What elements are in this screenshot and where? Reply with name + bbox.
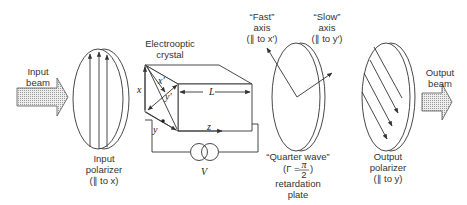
- output-polarizer-label-2: polarizer: [370, 162, 406, 173]
- quarter-wave-label-3: retardation: [275, 178, 320, 189]
- voltage-label: V: [201, 166, 209, 177]
- quarter-wave-plate: [267, 43, 332, 151]
- quarter-wave-label-4: plate: [288, 189, 309, 200]
- gamma-label: (Γ =: [283, 163, 300, 174]
- axis-z-label: z: [206, 121, 211, 132]
- output-beam-label-1: Output: [426, 67, 455, 78]
- crystal-label-2: crystal: [156, 49, 183, 60]
- slow-axis-label-3: (∥ to y′): [312, 33, 343, 45]
- input-polarizer: [73, 49, 129, 149]
- length-label: L: [208, 86, 215, 97]
- axis-y-label: y: [152, 124, 158, 135]
- axis-xprime-label: x′: [157, 75, 165, 86]
- fast-axis-label-1: “Fast”: [250, 11, 275, 22]
- input-polarizer-label-2: polarizer: [86, 164, 122, 175]
- gamma-close: ): [310, 163, 313, 174]
- slow-axis-label-1: “Slow”: [314, 11, 341, 22]
- input-beam-label-2: beam: [26, 77, 50, 88]
- output-polarizer-label-3: (∥ to y): [373, 173, 402, 185]
- input-beam-label-1: Input: [27, 66, 48, 77]
- output-polarizer: [362, 43, 415, 151]
- input-polarizer-label-3: (∥ to x): [89, 175, 118, 187]
- voltage-source-icon: [191, 144, 208, 161]
- quarter-wave-label-1: “Quarter wave”: [266, 151, 329, 162]
- modulator-diagram: Input beam Input polarizer (∥ to x) Elec…: [0, 0, 467, 205]
- input-polarizer-label-1: Input: [93, 153, 114, 164]
- output-beam-label-2: beam: [428, 78, 452, 89]
- slow-axis-label-2: axis: [319, 22, 336, 33]
- axis-x-label: x: [136, 84, 142, 95]
- fast-axis-label-2: axis: [254, 22, 271, 33]
- output-polarizer-label-1: Output: [374, 151, 403, 162]
- crystal-label-1: Electrooptic: [145, 38, 195, 49]
- output-beam-arrow: [422, 84, 452, 120]
- fast-axis-label-3: (∥ to x′): [247, 33, 278, 45]
- axis-yprime-label: y′: [164, 91, 172, 102]
